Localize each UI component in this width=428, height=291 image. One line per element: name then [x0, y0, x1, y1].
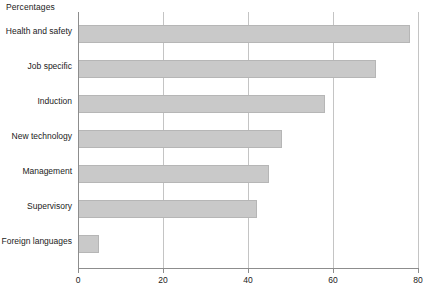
- category-label: Induction: [0, 96, 72, 107]
- plot-area: [78, 12, 418, 268]
- x-tick-mark-40: [248, 268, 249, 273]
- bar[interactable]: [78, 25, 410, 43]
- x-tick-label: 20: [148, 275, 178, 286]
- x-tick-mark-60: [333, 268, 334, 273]
- x-tick-label: 0: [63, 275, 93, 286]
- bar[interactable]: [78, 60, 376, 78]
- category-label: Foreign languages: [0, 236, 72, 247]
- category-label: Supervisory: [0, 201, 72, 212]
- bar-row: [78, 227, 418, 262]
- bar-row: [78, 157, 418, 192]
- category-label: Job specific: [0, 61, 72, 72]
- x-tick-mark-0: [78, 268, 79, 273]
- bar[interactable]: [78, 130, 282, 148]
- x-tick-label: 60: [318, 275, 348, 286]
- x-tick-label: 40: [233, 275, 263, 286]
- chart-title: Percentages: [6, 2, 55, 13]
- bar-chart: Percentages Health and safetyJob specifi…: [0, 0, 428, 291]
- category-label: New technology: [0, 131, 72, 142]
- gridline-80: [418, 12, 419, 268]
- x-tick-label: 80: [403, 275, 428, 286]
- bar-row: [78, 122, 418, 157]
- bar-row: [78, 192, 418, 227]
- bar-row: [78, 87, 418, 122]
- category-label: Management: [0, 166, 72, 177]
- x-tick-mark-20: [163, 268, 164, 273]
- bar[interactable]: [78, 235, 99, 253]
- category-label: Health and safety: [0, 26, 72, 37]
- bar[interactable]: [78, 200, 257, 218]
- y-axis-line: [78, 12, 79, 268]
- bar[interactable]: [78, 95, 325, 113]
- bar-row: [78, 17, 418, 52]
- bar[interactable]: [78, 165, 269, 183]
- x-tick-mark-80: [418, 268, 419, 273]
- bar-row: [78, 52, 418, 87]
